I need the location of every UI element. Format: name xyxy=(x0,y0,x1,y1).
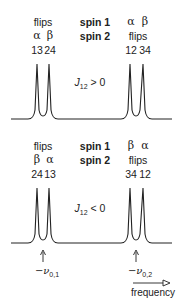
top-left-spin-state-a: α xyxy=(33,30,40,42)
bottom-left-spin-state-a: β xyxy=(34,154,40,166)
top-spin1-label: spin 1 xyxy=(80,16,110,28)
top-right-spin-state-a: α xyxy=(127,16,134,28)
top-transition-label: 34 xyxy=(139,44,151,56)
top-right-flips-label: flips xyxy=(129,30,148,42)
bottom-left-flips-label: flips xyxy=(34,140,53,152)
top-left-spin-state-b: β xyxy=(47,30,53,42)
top-spin2-label: spin 2 xyxy=(80,30,110,42)
top-left-flips-label: flips xyxy=(34,16,53,28)
top-transition-label: 13 xyxy=(31,44,43,56)
chemical-shift-marker-2: −ν0,2 xyxy=(128,265,152,281)
bottom-transition-label: 12 xyxy=(139,168,151,180)
top-transition-label: 24 xyxy=(44,44,56,56)
bottom-spin1-label: spin 1 xyxy=(80,140,110,152)
arrow-up-icon xyxy=(134,250,139,262)
bottom-right-spin-state-b: α xyxy=(141,140,148,152)
j-relation: < 0 xyxy=(88,202,106,214)
j-relation: > 0 xyxy=(88,76,106,88)
frequency-axis-label: frequency xyxy=(131,287,175,299)
spectrum-graphics xyxy=(0,0,185,306)
arrow-up-icon xyxy=(41,250,46,262)
nu-symbol: −ν xyxy=(128,265,142,276)
bottom-transition-label: 24 xyxy=(31,168,43,180)
bottom-right-spin-state-a: β xyxy=(128,140,134,152)
top-right-spin-state-b: β xyxy=(142,16,148,28)
j-subscript: 12 xyxy=(80,209,88,216)
nu-subscript: 0,2 xyxy=(142,271,152,278)
chemical-shift-marker-1: −ν0,1 xyxy=(35,265,59,281)
bottom-transition-label: 13 xyxy=(44,168,56,180)
bottom-right-flips-label: flips xyxy=(129,154,148,166)
nu-subscript: 0,1 xyxy=(49,271,59,278)
top-transition-label: 12 xyxy=(125,44,137,56)
bottom-left-spin-state-b: α xyxy=(46,154,53,166)
j-subscript: 12 xyxy=(80,83,88,90)
bottom-coupling-condition: J12 < 0 xyxy=(75,202,106,219)
top-coupling-condition: J12 > 0 xyxy=(75,76,106,93)
bottom-transition-label: 34 xyxy=(125,168,137,180)
nu-symbol: −ν xyxy=(35,265,49,276)
bottom-spin2-label: spin 2 xyxy=(80,154,110,166)
